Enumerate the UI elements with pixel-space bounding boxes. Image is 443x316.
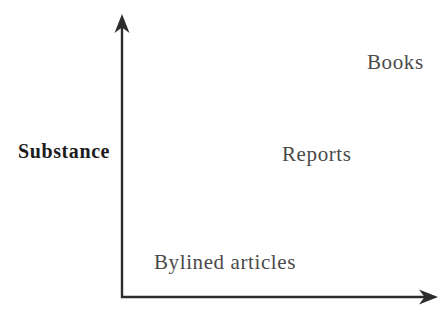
item-label-books: Books — [367, 50, 424, 74]
item-label-bylined-articles: Bylined articles — [154, 250, 296, 274]
y-axis-label: Substance — [18, 139, 110, 163]
positioning-diagram: Substance Bylined articles Reports Books — [0, 0, 443, 316]
item-label-reports: Reports — [282, 142, 352, 166]
